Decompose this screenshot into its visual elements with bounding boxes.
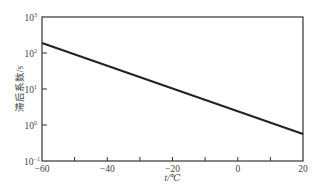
y-tick-label: 103 — [25, 12, 38, 23]
y-tick-label: 101 — [25, 84, 38, 95]
y-axis-labels: 103 102 101 100 10−1 — [24, 12, 40, 167]
x-axis-title: t/℃ — [165, 173, 181, 183]
x-tick-label: −60 — [35, 164, 50, 174]
chart: 103 102 101 100 10−1 −60 −40 −20 0 20 t/… — [0, 0, 324, 192]
y-tick-label: 100 — [25, 120, 38, 131]
series-line — [42, 43, 303, 134]
x-tick-label: 20 — [298, 164, 308, 174]
x-tick-label: −40 — [100, 164, 115, 174]
y-axis-ticks — [42, 53, 47, 125]
x-tick-label: 0 — [235, 164, 240, 174]
y-axis-title: 滞后系数/s — [14, 66, 25, 113]
y-tick-label: 102 — [25, 48, 38, 59]
x-axis-ticks — [75, 157, 271, 161]
